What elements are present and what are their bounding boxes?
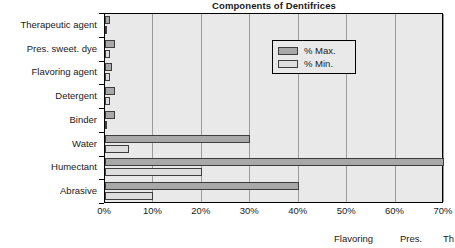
y-tick-mark: [99, 179, 104, 180]
x-tick-label: 60%: [385, 205, 404, 217]
bar-max: [105, 16, 110, 24]
y-tick-mark: [99, 108, 104, 109]
bar-min: [105, 97, 110, 105]
category-label: Water: [0, 138, 97, 149]
legend-entry: % Max.: [278, 44, 355, 57]
bar-group: [105, 110, 444, 132]
y-tick-mark: [99, 203, 104, 204]
bar-group: [105, 181, 444, 203]
bar-max: [105, 135, 250, 143]
bar-group: [105, 15, 444, 37]
category-axis: Therapeutic agentPres. sweet. dyeFlavori…: [0, 13, 102, 203]
x-tick-label: 20%: [191, 205, 210, 217]
bar-max: [105, 158, 444, 166]
bar-max: [105, 182, 299, 190]
category-label: Humectant: [0, 161, 97, 172]
category-label: Flavoring agent: [0, 66, 97, 77]
bar-max: [105, 40, 115, 48]
x-tick-label: 10%: [143, 205, 162, 217]
category-label: Therapeutic agent: [0, 19, 97, 30]
category-label: Binder: [0, 114, 97, 125]
bar-min: [105, 26, 107, 34]
bar-min: [105, 73, 110, 81]
bar-min: [105, 121, 107, 129]
legend-label: % Min.: [304, 58, 333, 69]
x-tick-label: 30%: [240, 205, 259, 217]
x-axis-tick-labels: 0%10%20%30%40%50%60%70%: [104, 205, 443, 219]
footer-label: Pres.: [400, 232, 422, 245]
legend-entry: % Min.: [278, 57, 355, 70]
y-tick-mark: [99, 13, 104, 14]
y-tick-mark: [99, 37, 104, 38]
chart-legend: % Max.% Min.: [272, 40, 356, 74]
y-tick-mark: [99, 61, 104, 62]
legend-swatch-icon: [278, 60, 298, 68]
bar-min: [105, 168, 202, 176]
bar-group: [105, 86, 444, 108]
bar-min: [105, 192, 153, 200]
x-tick-label: 50%: [337, 205, 356, 217]
footer-label: Flavoring: [334, 232, 373, 245]
bar-max: [105, 111, 115, 119]
bar-min: [105, 145, 129, 153]
bar-min: [105, 50, 110, 58]
legend-swatch-icon: [278, 47, 298, 55]
category-label: Detergent: [0, 90, 97, 101]
bar-group: [105, 157, 444, 179]
y-tick-mark: [99, 84, 104, 85]
x-tick-label: 0%: [97, 205, 111, 217]
footer-label: Th: [443, 232, 454, 245]
footer-text-row: FlavoringPres.Th: [0, 232, 455, 248]
bar-max: [105, 87, 115, 95]
bar-max: [105, 63, 112, 71]
bar-group: [105, 134, 444, 156]
chart-title: Components of Dentifrices: [104, 0, 444, 12]
x-tick-label: 40%: [288, 205, 307, 217]
x-tick-label: 70%: [433, 205, 452, 217]
category-label: Pres. sweet. dye: [0, 43, 97, 54]
y-tick-mark: [99, 156, 104, 157]
category-label: Abrasive: [0, 185, 97, 196]
legend-label: % Max.: [304, 45, 336, 56]
y-tick-mark: [99, 132, 104, 133]
